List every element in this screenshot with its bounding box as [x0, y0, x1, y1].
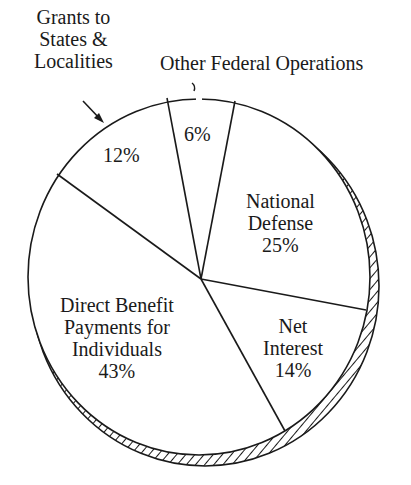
label-benefits-line3: Individuals	[60, 338, 174, 360]
label-benefits-line1: Direct Benefit	[60, 294, 174, 316]
label-defense-pct: 25%	[246, 234, 315, 256]
other-callout-tick-icon	[192, 83, 195, 91]
label-other: Other Federal Operations	[160, 52, 363, 74]
label-grants-line1: Grants to	[34, 6, 113, 28]
label-grants-line3: Localities	[34, 50, 113, 72]
label-defense-line2: Defense	[246, 212, 315, 234]
label-benefits-line2: Payments for	[60, 316, 174, 338]
label-interest-line1: Net	[263, 315, 323, 337]
label-grants: Grants to States & Localities	[34, 6, 113, 72]
label-grants-pct: 12%	[103, 144, 140, 166]
label-other-text: Other Federal Operations	[160, 52, 363, 74]
label-defense: National Defense 25%	[246, 190, 315, 256]
label-defense-line1: National	[246, 190, 315, 212]
label-grants-line2: States &	[34, 28, 113, 50]
pct-grants: 12%	[103, 144, 140, 166]
label-interest: Net Interest 14%	[263, 315, 323, 381]
label-benefits: Direct Benefit Payments for Individuals …	[60, 294, 174, 382]
label-interest-pct: 14%	[263, 359, 323, 381]
label-benefits-pct: 43%	[60, 360, 174, 382]
pct-other: 6%	[184, 123, 211, 145]
label-interest-line2: Interest	[263, 337, 323, 359]
label-other-pct: 6%	[184, 123, 211, 145]
grants-arrow-icon	[83, 101, 104, 123]
